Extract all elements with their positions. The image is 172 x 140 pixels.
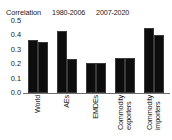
bar-series1: [57, 31, 67, 93]
bar-group: [111, 21, 140, 93]
bar-series2: [154, 35, 164, 93]
bar-series2: [38, 42, 48, 93]
bar-series1: [86, 63, 96, 93]
bar-series2: [125, 58, 135, 93]
x-axis-label-line1: EMDEs: [91, 95, 100, 119]
legend-label-2007-2020: 2007-2020: [96, 8, 129, 17]
legend-entry-1980-2006: 1980-2006: [46, 8, 85, 17]
x-axis-label: AEs: [63, 95, 71, 108]
bar-series2: [67, 59, 77, 93]
chart-legend: Correlation 1980-2006 2007-2020: [6, 7, 129, 18]
bar-group: [81, 21, 110, 93]
bar-group: [52, 21, 81, 93]
y-axis-tick-label: 0.4: [11, 32, 21, 39]
plot-area: [23, 21, 169, 93]
square-marker-icon: [90, 11, 94, 15]
y-axis-tick-labels: 0.50.40.30.20.10.0: [1, 18, 21, 96]
bar-group: [23, 21, 52, 93]
x-axis-label-line2: exporters: [125, 95, 133, 130]
x-axis-label-line1: AEs: [62, 95, 71, 108]
y-axis-tick-label: 0.1: [11, 75, 21, 82]
y-axis-tick-label: 0.3: [11, 46, 21, 53]
x-axis-label-slot: World: [23, 95, 52, 140]
x-axis-label: World: [34, 95, 42, 113]
x-axis-label-slot: AEs: [52, 95, 81, 140]
bar-series1: [144, 28, 154, 93]
x-axis-category-labels: WorldAEsEMDEsCommodityexportersCommodity…: [23, 95, 169, 140]
legend-label-1980-2006: 1980-2006: [52, 8, 85, 17]
x-axis-label-slot: Commodityimporters: [140, 95, 169, 140]
x-axis-label-slot: EMDEs: [81, 95, 110, 140]
bar-series1: [115, 58, 125, 93]
bar-series1: [28, 40, 38, 93]
y-axis-tick-label: 0.5: [11, 17, 21, 24]
bar-group: [140, 21, 169, 93]
bar-series2: [96, 63, 106, 93]
x-axis-label: Commodityimporters: [146, 95, 162, 130]
y-axis-tick-label: 0.0: [11, 89, 21, 96]
y-axis-tick-label: 0.2: [11, 60, 21, 67]
x-axis-label: Commodityexporters: [117, 95, 133, 130]
x-axis-label: EMDEs: [92, 95, 100, 119]
bar-chart-figure: Correlation 1980-2006 2007-2020 0.50.40.…: [0, 0, 172, 140]
x-axis-label-line1: World: [33, 95, 42, 113]
y-axis-line: [23, 21, 24, 93]
square-marker-icon: [46, 11, 50, 15]
legend-entry-2007-2020: 2007-2020: [90, 8, 129, 17]
x-axis-label-slot: Commodityexporters: [111, 95, 140, 140]
x-axis-label-line2: importers: [154, 95, 162, 130]
